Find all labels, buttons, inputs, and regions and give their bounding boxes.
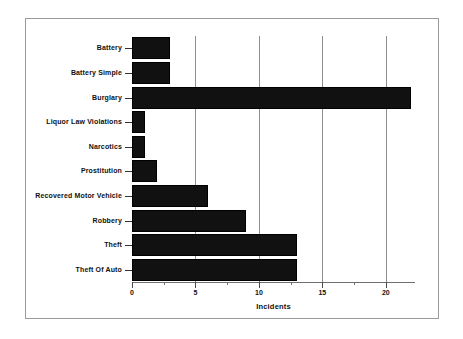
category-tick: [125, 270, 132, 271]
x-tick-minor: [227, 282, 228, 285]
x-tick-label: 15: [318, 289, 326, 296]
category-tick: [125, 196, 132, 197]
bar[interactable]: [132, 210, 246, 232]
category-tick: [125, 48, 132, 49]
category-axis: BatteryBattery SimpleBurglaryLiquor Law …: [25, 36, 132, 282]
x-axis-line: [132, 282, 415, 283]
x-tick: [195, 282, 196, 288]
category-label: Prostitution: [81, 160, 122, 182]
category-label: Robbery: [93, 210, 122, 232]
category-tick: [125, 171, 132, 172]
bar[interactable]: [132, 62, 170, 84]
x-axis-title: Incidents: [132, 302, 415, 311]
x-tick-minor: [164, 282, 165, 285]
bar-row[interactable]: [132, 259, 415, 281]
category-label: Theft Of Auto: [76, 259, 122, 281]
bar-row[interactable]: [132, 185, 415, 207]
bar-row[interactable]: [132, 210, 415, 232]
x-tick: [259, 282, 260, 288]
category-tick: [125, 245, 132, 246]
bar[interactable]: [132, 160, 157, 182]
bar-row[interactable]: [132, 136, 415, 158]
category-tick: [125, 147, 132, 148]
bar-row[interactable]: [132, 234, 415, 256]
x-tick-minor: [354, 282, 355, 285]
category-label: Liquor Law Violations: [46, 111, 122, 133]
category-label: Recovered Motor Vehicle: [35, 185, 122, 207]
x-tick: [386, 282, 387, 288]
x-tick-label: 5: [193, 289, 197, 296]
category-label: Burglary: [92, 87, 122, 109]
category-tick: [125, 122, 132, 123]
category-tick: [125, 221, 132, 222]
category-label: Narcotics: [89, 136, 122, 158]
bar[interactable]: [132, 87, 411, 109]
category-label: Battery Simple: [71, 62, 122, 84]
category-label: Theft: [104, 234, 122, 256]
x-tick-minor: [291, 282, 292, 285]
category-tick: [125, 73, 132, 74]
bar-row[interactable]: [132, 111, 415, 133]
x-tick-label: 0: [130, 289, 134, 296]
bar[interactable]: [132, 259, 297, 281]
plot-area: [132, 36, 415, 282]
bar-row[interactable]: [132, 87, 415, 109]
bar[interactable]: [132, 234, 297, 256]
x-tick: [322, 282, 323, 288]
bar[interactable]: [132, 37, 170, 59]
bar[interactable]: [132, 111, 145, 133]
x-tick-label: 20: [382, 289, 390, 296]
x-tick-label: 10: [255, 289, 263, 296]
bar-row[interactable]: [132, 160, 415, 182]
bar-row[interactable]: [132, 37, 415, 59]
bar[interactable]: [132, 185, 208, 207]
category-tick: [125, 98, 132, 99]
bar-row[interactable]: [132, 62, 415, 84]
category-label: Battery: [97, 37, 122, 59]
bars-layer: [132, 36, 415, 282]
bar[interactable]: [132, 136, 145, 158]
x-tick: [132, 282, 133, 288]
